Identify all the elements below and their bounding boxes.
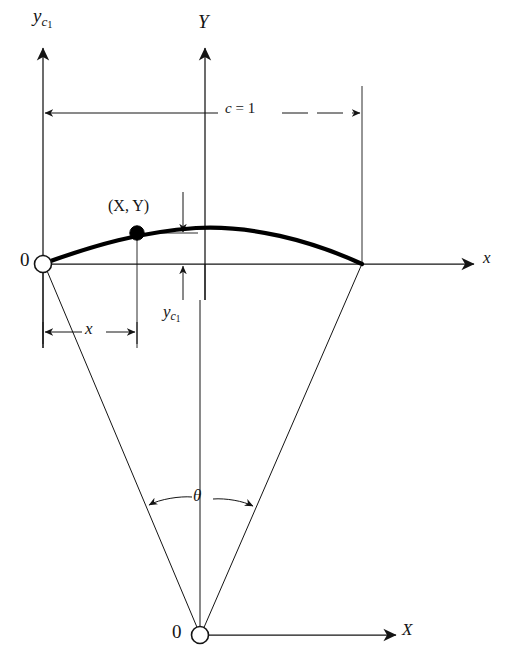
geometry-drawing <box>0 0 511 663</box>
theta-arc-left <box>149 497 192 505</box>
camber-height-label: yc1 <box>163 303 181 324</box>
chord-dimension-label: c = 1 <box>225 101 255 116</box>
x-axis-label: x <box>483 249 491 266</box>
point-coordinates-label: (X, Y) <box>108 198 149 214</box>
leading-edge-origin-marker <box>35 256 52 273</box>
figure-canvas: yc1 Y c = 1 (X, Y) 0 x yc1 x θ 0 X <box>0 0 511 663</box>
camber-point-marker <box>130 226 144 240</box>
yc1-axis-label: yc1 <box>33 6 53 30</box>
theta-arc-right <box>213 499 253 506</box>
top-origin-label: 0 <box>20 250 30 269</box>
Y-axis-label: Y <box>198 12 209 31</box>
camber-line-curve <box>45 228 362 264</box>
right-radial-line <box>202 266 361 632</box>
X-axis-label: X <box>402 621 412 638</box>
bottom-origin-label: 0 <box>172 622 182 641</box>
theta-angle-label: θ <box>193 487 201 504</box>
bottom-origin-marker <box>192 627 209 644</box>
x-dimension-label: x <box>85 320 93 337</box>
